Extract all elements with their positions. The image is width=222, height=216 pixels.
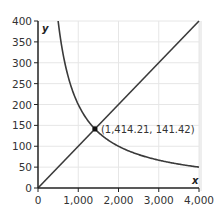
y-tick-label: 400: [12, 15, 32, 27]
y-axis-label: y: [42, 23, 49, 34]
y-tick-label: 0: [25, 182, 32, 194]
x-tick-label: 4,000: [184, 194, 214, 206]
y-tick-label: 150: [12, 119, 32, 131]
y-tick-label: 250: [12, 78, 32, 90]
intersection-point: [92, 126, 97, 131]
x-tick-label: 1,000: [63, 194, 93, 206]
intersection-annotation: (1,414.21, 141.42): [101, 124, 195, 135]
y-tick-label: 100: [12, 140, 32, 152]
y-tick-label: 200: [12, 99, 32, 111]
y-tick-label: 350: [12, 36, 32, 48]
x-tick-label: 2,000: [103, 194, 133, 206]
x-tick-label: 0: [35, 194, 42, 206]
x-tick-label: 3,000: [144, 194, 174, 206]
x-axis-label: x: [191, 175, 199, 186]
chart: 05010015020025030035040001,0002,0003,000…: [0, 0, 222, 216]
y-tick-label: 50: [19, 161, 32, 173]
y-tick-label: 300: [12, 57, 32, 69]
